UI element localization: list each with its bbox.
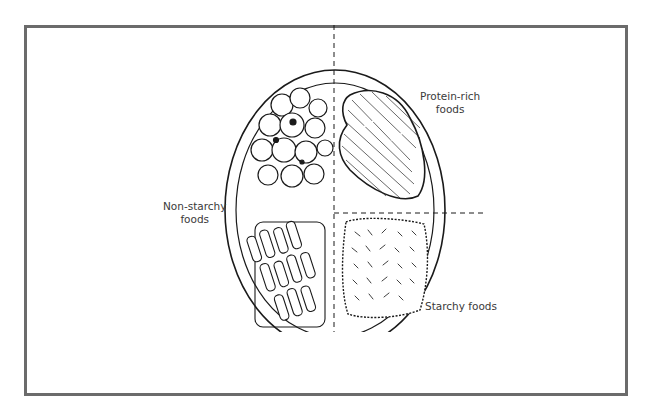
carrots-illustration [245,219,326,327]
label-line: foods [420,103,480,116]
label-protein-rich-foods: Protein-rich foods [420,90,480,116]
meat-illustration [339,91,424,199]
label-line: foods [163,213,226,226]
label-line: Starchy foods [425,300,497,313]
label-non-starchy-foods: Non-starchy foods [163,200,226,226]
label-starchy-foods: Starchy foods [425,300,497,313]
label-line: Non-starchy [163,200,226,213]
rice-illustration [343,218,428,317]
label-line: Protein-rich [420,90,480,103]
